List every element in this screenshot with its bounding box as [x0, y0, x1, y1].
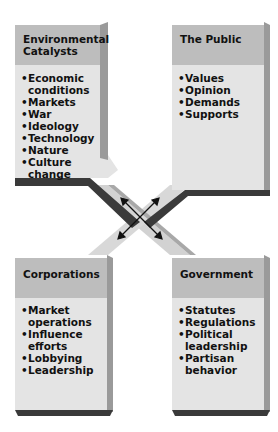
panel-environmental-catalysts: Environmental Catalysts Economic conditi… — [15, 25, 107, 178]
list-item: Leadership — [21, 364, 107, 376]
list-item: Statutes — [178, 304, 264, 316]
list-item: Partisan behavior — [178, 352, 264, 376]
item-list: Market operations Influence efforts Lobb… — [21, 304, 107, 376]
list-item: Influence efforts — [21, 328, 107, 352]
panel-title: The Public — [172, 25, 264, 63]
item-list: Values Opinion Demands Supports — [178, 72, 264, 120]
list-item: Demands — [178, 96, 264, 108]
list-item: Supports — [178, 108, 264, 120]
list-item: Markets — [21, 96, 107, 108]
list-item: Culture change — [21, 156, 107, 180]
panel-title: Environmental Catalysts — [15, 25, 107, 63]
panel-corporations: Corporations Market operations Influence… — [15, 258, 107, 410]
panel-title: Government — [172, 258, 264, 296]
list-item: War — [21, 108, 107, 120]
panel-title: Corporations — [15, 258, 107, 296]
item-list: Statutes Regulations Political leadershi… — [178, 304, 264, 376]
list-item: Opinion — [178, 84, 264, 96]
list-item: Values — [178, 72, 264, 84]
panel-the-public: The Public Values Opinion Demands Suppor… — [172, 25, 264, 190]
list-item: Regulations — [178, 316, 264, 328]
list-item: Ideology — [21, 120, 107, 132]
list-item: Lobbying — [21, 352, 107, 364]
list-item: Market operations — [21, 304, 107, 328]
list-item: Nature — [21, 144, 107, 156]
list-item: Technology — [21, 132, 107, 144]
panel-government: Government Statutes Regulations Politica… — [172, 258, 264, 410]
item-list: Economic conditions Markets War Ideology… — [21, 72, 107, 180]
list-item: Economic conditions — [21, 72, 107, 96]
list-item: Political leadership — [178, 328, 264, 352]
